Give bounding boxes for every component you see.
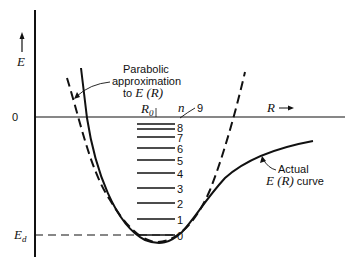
- svg-text:8: 8: [177, 122, 183, 134]
- ed-label: Ed: [13, 227, 27, 244]
- n-label: n: [178, 100, 185, 115]
- svg-text:5: 5: [177, 155, 183, 167]
- svg-text:6: 6: [177, 143, 183, 155]
- vibrational-levels: [137, 124, 175, 235]
- parabolic-label-line1: Parabolic: [123, 63, 169, 75]
- svg-text:1: 1: [177, 214, 183, 226]
- r0-label: R0: [140, 101, 154, 118]
- svg-text:4: 4: [177, 168, 183, 180]
- potential-energy-diagram: E 0 R Ed 0 1 2 3 4 5 6 7 8 9 R0 n: [0, 0, 353, 267]
- zero-label: 0: [12, 111, 18, 123]
- actual-label-line2: E (R) curve: [265, 173, 324, 188]
- svg-text:9: 9: [197, 102, 203, 114]
- y-axis-label: E: [16, 54, 25, 69]
- parabolic-label-line3: to E (R): [123, 85, 163, 100]
- actual-pointer-arrow-icon: [260, 156, 276, 170]
- svg-text:2: 2: [177, 198, 183, 210]
- actual-energy-curve: [81, 68, 313, 243]
- x-axis-label: R: [266, 100, 275, 115]
- parabolic-pointer-arrow-icon: [74, 82, 110, 99]
- svg-text:3: 3: [177, 183, 183, 195]
- r-arrow-icon: [279, 106, 294, 111]
- energy-arrow-icon: [20, 32, 25, 52]
